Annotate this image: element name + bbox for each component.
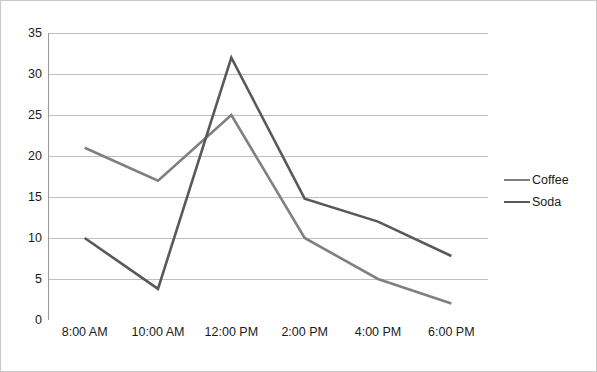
legend-swatch-icon (504, 201, 530, 203)
y-axis: 05101520253035 (1, 33, 42, 320)
legend-swatch-icon (504, 179, 530, 181)
legend-item-soda[interactable]: Soda (504, 191, 589, 213)
y-tick-label: 10 (1, 232, 42, 245)
chart-container: 05101520253035 8:00 AM10:00 AM12:00 PM2:… (0, 0, 597, 372)
x-tick-label: 12:00 PM (205, 326, 259, 339)
x-tick-label: 8:00 AM (62, 326, 108, 339)
y-tick-label: 20 (1, 150, 42, 163)
y-tick-label: 0 (1, 314, 42, 327)
y-tick-label: 30 (1, 68, 42, 81)
chart-plot-svg (48, 33, 488, 320)
y-tick-label: 35 (1, 27, 42, 40)
legend-label: Soda (532, 196, 561, 209)
y-tick-label: 25 (1, 109, 42, 122)
y-tick-label: 15 (1, 191, 42, 204)
x-tick-label: 10:00 AM (132, 326, 185, 339)
chart-legend: CoffeeSoda (504, 169, 589, 213)
plot-area (48, 33, 488, 320)
x-tick-label: 6:00 PM (428, 326, 475, 339)
legend-label: Coffee (532, 174, 569, 187)
x-tick-label: 2:00 PM (281, 326, 328, 339)
x-axis: 8:00 AM10:00 AM12:00 PM2:00 PM4:00 PM6:0… (48, 326, 488, 346)
y-tick-label: 5 (1, 273, 42, 286)
legend-item-coffee[interactable]: Coffee (504, 169, 589, 191)
x-tick-label: 4:00 PM (355, 326, 402, 339)
